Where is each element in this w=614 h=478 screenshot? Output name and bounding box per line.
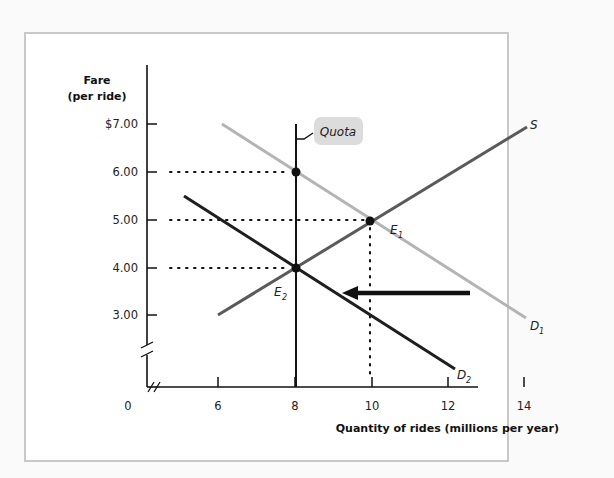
demand-curve-d2 — [184, 196, 455, 369]
svg-text:1: 1 — [398, 231, 403, 240]
demand-shift-arrow-icon — [342, 286, 470, 300]
y-axis-title-line2: (per ride) — [67, 90, 126, 103]
svg-text:E: E — [274, 285, 282, 299]
x-tick-label-6: 6 — [214, 399, 221, 413]
svg-text:1: 1 — [539, 327, 544, 336]
svg-text:D: D — [457, 368, 466, 382]
y-tick-label-6: 6.00 — [112, 165, 138, 179]
svg-text:2: 2 — [466, 376, 471, 385]
x-tick-label-10: 10 — [365, 399, 380, 413]
x-tick-label-8: 8 — [291, 399, 298, 413]
y-tick-label-3: 3.00 — [112, 308, 138, 322]
x-tick-label-12: 12 — [441, 399, 456, 413]
x-axis-title: Quantity of rides (millions per year) — [336, 422, 559, 435]
reference-lines — [170, 172, 370, 380]
quota-leader-line — [296, 133, 313, 139]
label-d1: D 1 — [530, 319, 544, 336]
y-tick-label-5: 5.00 — [112, 213, 138, 227]
y-tick-label-7: $7.00 — [105, 117, 138, 131]
y-ticks — [147, 124, 157, 315]
y-axis-title-line1: Fare — [83, 74, 110, 87]
quota-label: Quota — [320, 125, 356, 139]
point-quota-demand-price — [292, 168, 301, 177]
x-ticks — [218, 377, 524, 387]
point-e2 — [292, 264, 301, 273]
x-tick-label-0: 0 — [124, 399, 131, 413]
label-e1: E 1 — [390, 223, 403, 240]
label-s: S — [530, 118, 538, 132]
y-tick-label-4: 4.00 — [112, 261, 138, 275]
x-tick-label-14: 14 — [517, 399, 532, 413]
quota-market-chart: Fare (per ride) $7.00 6.00 5.00 4.00 3.0… — [0, 0, 614, 478]
svg-text:2: 2 — [282, 293, 287, 302]
svg-text:D: D — [530, 319, 539, 333]
point-e1 — [366, 217, 375, 226]
label-e2: E 2 — [274, 285, 287, 302]
label-d2: D 2 — [457, 368, 471, 385]
svg-text:E: E — [390, 223, 398, 237]
